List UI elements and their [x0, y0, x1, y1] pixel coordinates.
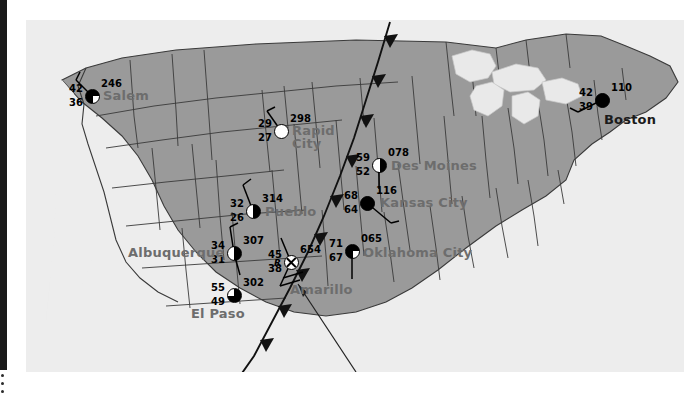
temperature-boston: 42: [579, 88, 593, 98]
city-label-amarillo: Amarillo: [290, 283, 353, 297]
sky-cover-pueblo: [246, 204, 261, 219]
sky-cover-des-moines: [372, 158, 387, 173]
sky-cover-el-paso: [227, 288, 242, 303]
dewpoint-salem: 36: [69, 98, 83, 108]
pressure-pueblo: 314: [262, 194, 283, 204]
pressure-el-paso: 302: [243, 278, 264, 288]
dewpoint-pueblo: 26: [230, 213, 244, 223]
sky-cover-amarillo: [284, 255, 299, 270]
left-edge-dots: [1, 374, 6, 404]
pressure-des-moines: 078: [388, 148, 409, 158]
dewpoint-boston: 39: [579, 102, 593, 112]
left-edge-bar: [0, 0, 7, 370]
city-label-salem: Salem: [103, 89, 149, 103]
sky-cover-salem: [85, 89, 100, 104]
pressure-boston: 110: [611, 83, 632, 93]
city-label-kansas-city: Kansas City: [380, 196, 468, 210]
pressure-albuquerque: 307: [243, 236, 264, 246]
city-label-pueblo: Pueblo: [265, 205, 317, 219]
city-label-rapid-city: Rapid City: [292, 124, 335, 150]
dewpoint-kansas-city: 64: [344, 205, 358, 215]
dewpoint-oklahoma-city: 67: [329, 253, 343, 263]
weather-map-screenshot: 42 36 246 Salem 29 27 298 Rapid City 42 …: [0, 0, 684, 412]
pressure-oklahoma-city: 065: [361, 234, 382, 244]
temperature-salem: 42: [69, 84, 83, 94]
temperature-el-paso: 55: [211, 283, 225, 293]
city-label-line2: City: [292, 136, 322, 151]
sky-cover-kansas-city: [360, 196, 375, 211]
city-label-des-moines: Des Moines: [391, 159, 477, 173]
sky-cover-rapid-city: [274, 124, 289, 139]
temperature-rapid-city: 29: [258, 119, 272, 129]
pressure-amarillo: 654: [300, 245, 321, 255]
sky-cover-boston: [595, 93, 610, 108]
sky-cover-albuquerque: [227, 246, 242, 261]
temperature-oklahoma-city: 71: [329, 239, 343, 249]
temperature-des-moines: 59: [356, 153, 370, 163]
sky-cover-oklahoma-city: [345, 244, 360, 259]
city-label-boston: Boston: [604, 113, 656, 127]
city-label-albuquerque: Albuquerque: [128, 246, 224, 260]
temperature-pueblo: 32: [230, 199, 244, 209]
city-label-oklahoma-city: Oklahoma City: [363, 246, 472, 260]
weather-symbol-amarillo: R: [274, 258, 281, 268]
city-label-el-paso: El Paso: [191, 307, 245, 321]
dewpoint-des-moines: 52: [356, 167, 370, 177]
temperature-kansas-city: 68: [344, 191, 358, 201]
dewpoint-rapid-city: 27: [258, 133, 272, 143]
